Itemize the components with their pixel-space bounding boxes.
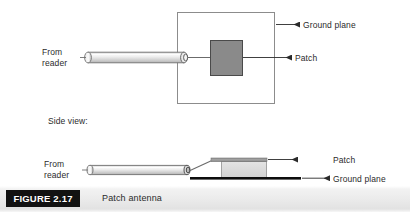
- patch-label-top-view: Patch: [295, 53, 317, 63]
- page-bottom-margin: [0, 212, 410, 224]
- substrate-block-side-view: [222, 162, 267, 178]
- figure-container: From reader Ground plane Patch Side view…: [0, 0, 410, 224]
- coax-cable-top-view: [80, 52, 188, 63]
- patch-square-top-view: [211, 41, 243, 76]
- ground-plane-bar-side-view: [190, 177, 301, 180]
- side-view-heading: Side view:: [48, 116, 88, 126]
- patch-bar-side-view: [211, 158, 267, 162]
- from-reader-label-top-view: From reader: [42, 47, 67, 68]
- figure-caption-bar: FIGURE 2.17 Patch antenna: [0, 186, 410, 212]
- ground-plane-label-top-view: Ground plane: [303, 20, 356, 30]
- figure-caption-text: Patch antenna: [102, 193, 162, 203]
- patch-label-side-view: Patch: [333, 155, 355, 165]
- figure-number-text: FIGURE 2.17: [13, 193, 72, 204]
- coax-cable-side-view: [82, 165, 190, 174]
- from-reader-label-side-view: From reader: [44, 159, 69, 180]
- ground-plane-label-side-view: Ground plane: [333, 174, 386, 184]
- figure-number-box: FIGURE 2.17: [6, 190, 80, 207]
- feed-line-side-view: [189, 160, 214, 172]
